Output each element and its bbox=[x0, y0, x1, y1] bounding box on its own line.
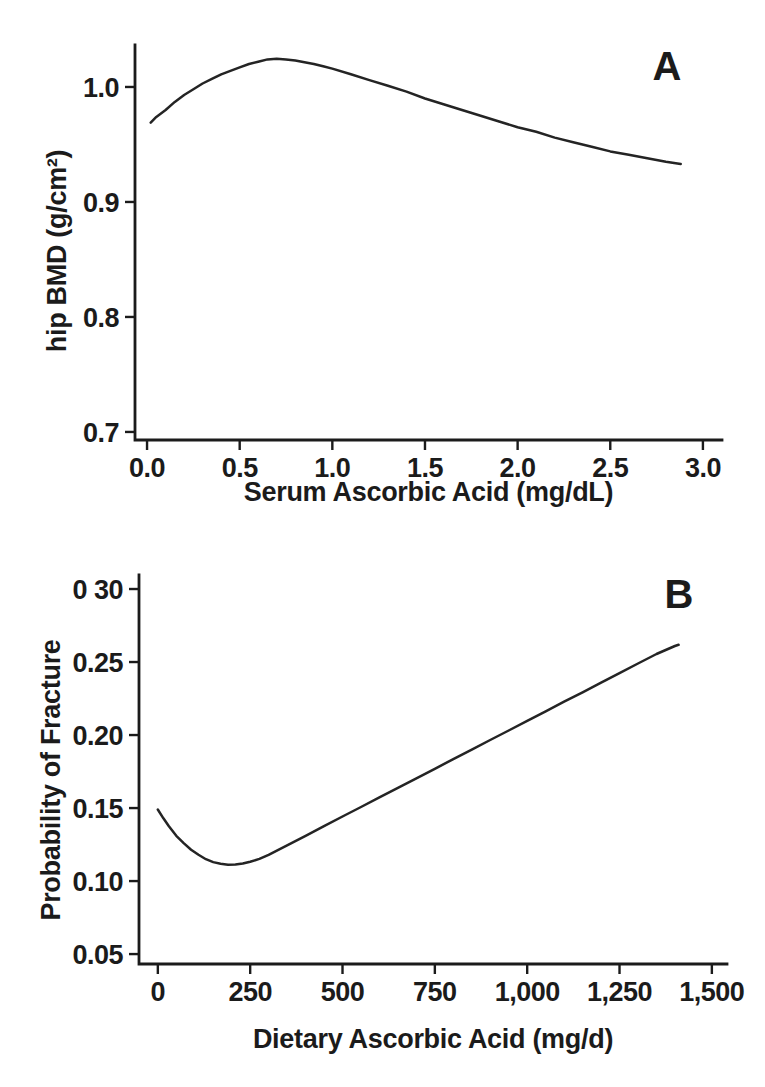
x-tick-label: 500 bbox=[321, 977, 365, 1007]
panel-b-letter: B bbox=[665, 572, 694, 617]
y-tick-label: 0.7 bbox=[83, 418, 119, 448]
x-tick-label: 1,500 bbox=[679, 977, 744, 1007]
y-tick-label: 0.20 bbox=[72, 721, 123, 751]
y-tick-label: 0.10 bbox=[72, 867, 123, 897]
x-tick-label: 1,000 bbox=[495, 977, 560, 1007]
y-tick-label: 0.8 bbox=[83, 303, 120, 333]
panel-b-y-axis-title: Probability of Fracture bbox=[36, 639, 67, 920]
figure-canvas: 0.00.51.01.52.02.53.00.70.80.91.0 025050… bbox=[0, 0, 765, 1087]
y-tick-label: 0 30 bbox=[72, 575, 123, 605]
axes bbox=[135, 45, 722, 440]
x-tick-label: 1,250 bbox=[587, 977, 652, 1007]
panel-a-x-axis-title: Serum Ascorbic Acid (mg/dL) bbox=[135, 477, 722, 508]
y-tick-label: 1.0 bbox=[83, 73, 119, 103]
chart-panel-b: 02505007501,0001,2501,5000.050.100.150.2… bbox=[0, 540, 765, 1087]
x-tick-label: 750 bbox=[413, 977, 457, 1007]
x-tick-label: 250 bbox=[228, 977, 272, 1007]
panel-a-letter: A bbox=[653, 44, 682, 89]
y-tick-label: 0.9 bbox=[83, 188, 120, 218]
x-tick-label: 0 bbox=[151, 977, 166, 1007]
curve-a bbox=[151, 59, 681, 164]
curve-b bbox=[158, 645, 679, 865]
y-tick-label: 0.25 bbox=[72, 648, 123, 678]
y-tick-label: 0.05 bbox=[72, 940, 123, 970]
y-tick-label: 0.15 bbox=[72, 794, 123, 824]
chart-panel-a: 0.00.51.01.52.02.53.00.70.80.91.0 bbox=[0, 0, 765, 540]
panel-b-x-axis-title: Dietary Ascorbic Acid (mg/d) bbox=[139, 1024, 727, 1055]
panel-a-y-axis-title: hip BMD (g/cm²) bbox=[42, 150, 73, 352]
